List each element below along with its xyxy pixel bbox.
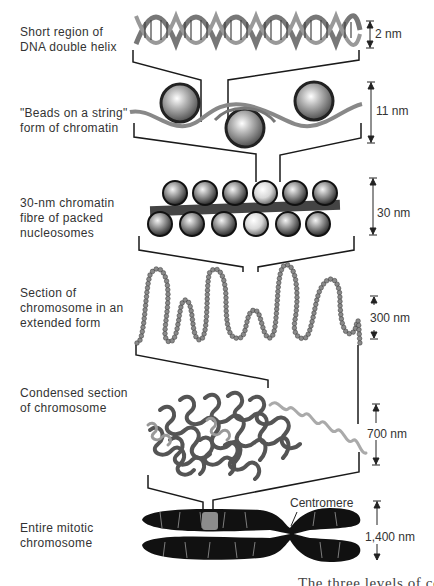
scale-bars xyxy=(366,21,381,560)
dna-double-helix-icon xyxy=(136,16,360,45)
mitotic-chromosome-icon xyxy=(142,508,360,562)
beads-on-string-icon xyxy=(130,82,362,147)
condensed-section-icon xyxy=(148,393,366,479)
highlighted-region xyxy=(202,512,218,530)
extended-chromosome-icon xyxy=(137,265,360,345)
extended-chromosome-beads xyxy=(135,263,363,346)
30nm-fibre-icon xyxy=(148,181,340,236)
chromatin-diagram-art xyxy=(0,0,434,586)
